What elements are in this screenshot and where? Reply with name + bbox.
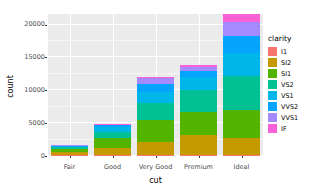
legend-item[interactable]: IF — [268, 123, 320, 134]
bar-segment[interactable] — [94, 125, 131, 127]
bar-good[interactable] — [94, 124, 131, 156]
legend-item[interactable]: VS2 — [268, 79, 320, 90]
y-tick-label: 15000 — [14, 53, 45, 62]
x-tick-mark — [199, 156, 200, 158]
bar-segment[interactable] — [137, 84, 174, 92]
chart-container: count cut 05000100001500020000 clarity I… — [0, 0, 320, 192]
bar-segment[interactable] — [223, 22, 260, 35]
legend-items: I1SI2SI1VS2VS1VVS2VVS1IF — [268, 46, 320, 134]
legend-label: SI2 — [281, 59, 291, 67]
gridline-vertical — [70, 14, 71, 156]
y-tick-label: 20000 — [14, 20, 45, 29]
bar-premium[interactable] — [180, 65, 217, 156]
x-axis-title: cut — [48, 176, 263, 185]
legend-item[interactable]: SI2 — [268, 57, 320, 68]
bar-segment[interactable] — [180, 112, 217, 136]
legend-item[interactable]: VS1 — [268, 90, 320, 101]
y-tick-mark — [45, 156, 47, 157]
legend-swatch — [268, 102, 277, 111]
legend-item[interactable]: I1 — [268, 46, 320, 57]
bar-segment[interactable] — [223, 138, 260, 155]
legend-swatch — [268, 69, 277, 78]
bar-segment[interactable] — [137, 142, 174, 156]
bar-segment[interactable] — [94, 138, 131, 148]
y-tick-mark — [45, 90, 47, 91]
x-tick-mark — [113, 156, 114, 158]
bar-fair[interactable] — [51, 145, 88, 156]
bar-segment[interactable] — [137, 77, 174, 79]
bar-segment[interactable] — [51, 152, 88, 155]
bar-segment[interactable] — [223, 110, 260, 138]
bar-segment[interactable] — [94, 132, 131, 138]
bar-ideal[interactable] — [223, 14, 260, 156]
legend-label: VVS1 — [281, 114, 298, 122]
bar-segment[interactable] — [180, 67, 217, 71]
x-tick-mark — [70, 156, 71, 158]
bar-segment[interactable] — [51, 149, 88, 152]
legend-item[interactable]: VVS2 — [268, 101, 320, 112]
legend-label: SI1 — [281, 70, 291, 78]
bar-segment[interactable] — [137, 78, 174, 83]
legend-swatch — [268, 91, 277, 100]
bar-segment[interactable] — [223, 76, 260, 109]
y-tick-label: 0 — [14, 152, 45, 161]
x-tick-mark — [242, 156, 243, 158]
y-tick-mark — [45, 57, 47, 58]
x-tick-mark — [156, 156, 157, 158]
bar-segment[interactable] — [223, 14, 260, 22]
y-tick-mark — [45, 123, 47, 124]
bar-segment[interactable] — [180, 77, 217, 90]
legend-item[interactable]: SI1 — [268, 68, 320, 79]
legend-swatch — [268, 80, 277, 89]
bar-segment[interactable] — [94, 124, 131, 125]
legend-swatch — [268, 58, 277, 67]
y-tick-mark — [45, 25, 47, 26]
bar-segment[interactable] — [180, 65, 217, 67]
legend: clarity I1SI2SI1VS2VS1VVS2VVS1IF — [268, 34, 320, 134]
bar-segment[interactable] — [180, 90, 217, 112]
bar-segment[interactable] — [223, 53, 260, 77]
bar-segment[interactable] — [223, 36, 260, 53]
bar-segment[interactable] — [51, 146, 88, 147]
bar-segment[interactable] — [137, 92, 174, 104]
bar-segment[interactable] — [94, 148, 131, 155]
legend-label: I1 — [281, 48, 287, 56]
legend-label: VVS2 — [281, 103, 298, 111]
bar-segment[interactable] — [180, 71, 217, 77]
legend-swatch — [268, 113, 277, 122]
y-tick-label: 10000 — [14, 86, 45, 95]
plot-panel — [48, 14, 263, 156]
bar-segment[interactable] — [137, 120, 174, 141]
legend-swatch — [268, 47, 277, 56]
legend-label: VS2 — [281, 81, 294, 89]
legend-label: VS1 — [281, 92, 294, 100]
bar-segment[interactable] — [94, 127, 131, 131]
legend-swatch — [268, 124, 277, 133]
bar-very-good[interactable] — [137, 77, 174, 156]
bar-segment[interactable] — [51, 147, 88, 149]
y-tick-label: 5000 — [14, 119, 45, 128]
bar-segment[interactable] — [137, 103, 174, 120]
legend-label: IF — [281, 125, 287, 133]
x-tick-label: Ideal — [212, 163, 272, 171]
legend-title: clarity — [268, 34, 320, 43]
legend-item[interactable]: VVS1 — [268, 112, 320, 123]
bar-segment[interactable] — [180, 135, 217, 154]
